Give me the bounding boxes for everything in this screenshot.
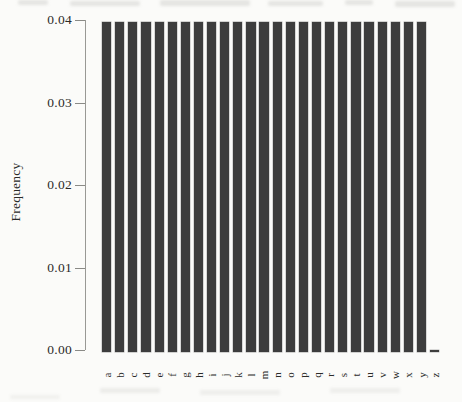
scan-artifact (160, 0, 250, 6)
bar-s (338, 22, 347, 352)
y-axis-tick (75, 20, 85, 21)
y-axis-tick-label: 0.03 (22, 94, 72, 112)
x-axis-tick-label-d: d (139, 368, 153, 382)
x-axis-tick-label-c: c (126, 368, 140, 382)
y-axis-tick-label: 0.00 (22, 341, 72, 359)
bar-m (259, 22, 268, 352)
x-axis-tick-label-k: k (231, 368, 245, 382)
bar-i (207, 22, 216, 352)
x-axis-tick-label-l: l (244, 368, 258, 382)
bar-b (115, 22, 124, 352)
bar-p (299, 22, 308, 352)
bar-r (325, 22, 334, 352)
scan-artifact (200, 390, 280, 395)
bar-g (181, 22, 190, 352)
x-axis-tick-label-p: p (296, 368, 310, 382)
bar-a (102, 22, 111, 352)
bar-w (391, 22, 400, 352)
scan-artifact (268, 1, 323, 6)
x-axis-tick-label-e: e (152, 368, 166, 382)
x-axis-tick-label-a: a (100, 368, 114, 382)
x-axis-tick-label-y: y (415, 368, 429, 382)
y-axis-tick-label: 0.01 (22, 259, 72, 277)
bar-x (404, 22, 413, 352)
bar-d (141, 22, 150, 352)
bar-n (273, 22, 282, 352)
scan-artifact (395, 1, 455, 7)
x-axis-tick-label-b: b (113, 368, 127, 382)
scan-artifact (330, 388, 400, 393)
scan-artifact (70, 1, 140, 6)
bar-q (312, 22, 321, 352)
bar-j (220, 22, 229, 352)
bar-o (286, 22, 295, 352)
y-axis-tick-label: 0.04 (22, 11, 72, 29)
bar-v (378, 22, 387, 352)
x-axis-tick-label-t: t (349, 368, 363, 382)
bar-l (246, 22, 255, 352)
scan-artifact (345, 0, 373, 5)
bar-h (194, 22, 203, 352)
x-axis-tick-label-u: u (362, 368, 376, 382)
x-axis-tick-label-j: j (218, 368, 232, 382)
x-axis-tick-label-q: q (310, 368, 324, 382)
bar-z (430, 350, 439, 352)
y-axis-tick (75, 268, 85, 269)
bar-k (233, 22, 242, 352)
bar-f (168, 22, 177, 352)
y-axis-tick-label: 0.02 (22, 176, 72, 194)
x-axis-tick-label-g: g (178, 368, 192, 382)
bar-y (417, 22, 426, 352)
bar-c (128, 22, 137, 352)
x-axis-tick-label-h: h (192, 368, 206, 382)
scan-artifact (18, 0, 48, 5)
x-axis-tick-label-m: m (257, 368, 271, 382)
y-axis-tick (75, 185, 85, 186)
y-axis-tick (75, 103, 85, 104)
bar-chart-figure: Frequency 0.000.010.020.030.04abcdefghij… (0, 0, 462, 402)
x-axis-tick-label-i: i (205, 368, 219, 382)
x-axis-tick-label-r: r (323, 368, 337, 382)
x-axis-tick-label-x: x (401, 368, 415, 382)
bar-e (155, 22, 164, 352)
x-axis-tick-label-z: z (428, 368, 442, 382)
y-axis-tick (75, 350, 85, 351)
scan-artifact (10, 395, 60, 399)
scan-artifact (100, 388, 160, 393)
bar-t (351, 22, 360, 352)
y-axis-line (85, 20, 86, 350)
bar-u (364, 22, 373, 352)
x-axis-tick-label-s: s (336, 368, 350, 382)
